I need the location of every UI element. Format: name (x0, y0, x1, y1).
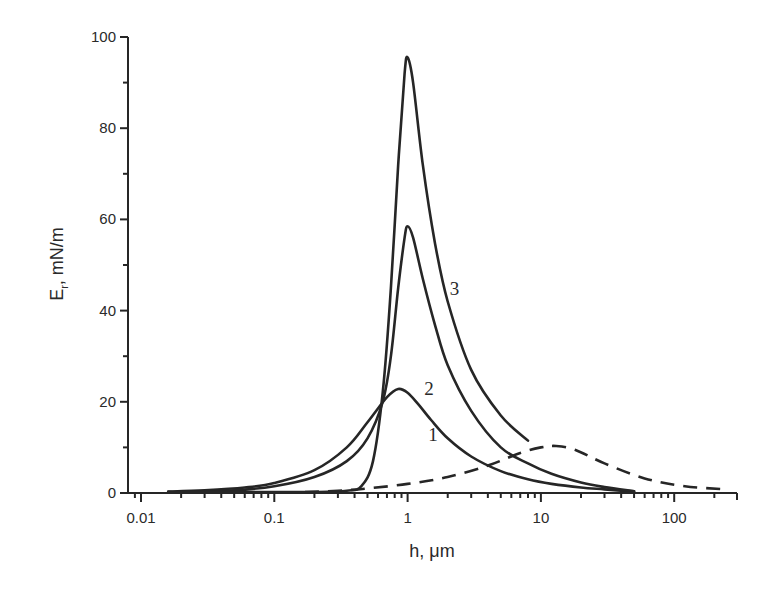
series-3-curve (168, 57, 528, 492)
series-layer (168, 57, 727, 492)
y-axis-title-unit: , mN/m (47, 227, 67, 285)
curve-label-3: 3 (450, 278, 460, 299)
y-tick-label: 60 (99, 210, 116, 227)
x-axis-title: h, μm (409, 541, 454, 561)
y-tick-label: 100 (91, 28, 116, 45)
x-tick-label: 10 (533, 509, 550, 526)
y-tick-label: 40 (99, 302, 116, 319)
curve-label-1: 1 (428, 424, 438, 445)
y-axis-title-main: E (47, 289, 67, 301)
y-tick-label: 0 (108, 484, 116, 501)
x-tick-label: 100 (662, 509, 687, 526)
x-tick-label: 1 (403, 509, 411, 526)
y-axis-title: Er, mN/m (47, 227, 70, 301)
y-tick-label: 80 (99, 119, 116, 136)
chart: 123 020406080100 0.010.1110100 h, μm Er,… (0, 0, 776, 597)
x-tick-label: 0.01 (126, 509, 155, 526)
series-dashed-curve (305, 446, 727, 492)
x-tick-label: 0.1 (264, 509, 285, 526)
x-axis: 0.010.1110100 (120, 493, 737, 526)
y-tick-label: 20 (99, 393, 116, 410)
curve-label-2: 2 (424, 378, 434, 399)
series-2-curve (168, 226, 634, 492)
y-axis: 020406080100 (91, 28, 128, 501)
plot-area: 123 (168, 57, 727, 492)
series-1-curve (168, 389, 634, 492)
